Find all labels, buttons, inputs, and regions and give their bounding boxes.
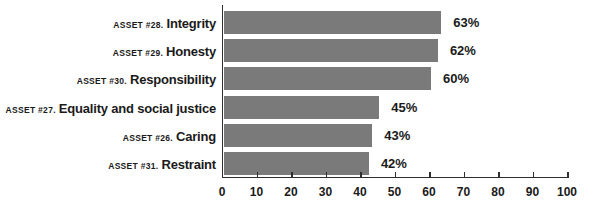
x-axis-tick-label: 30 xyxy=(319,185,332,199)
x-axis-tick-label: 90 xyxy=(526,185,539,199)
x-axis-tick-label: 100 xyxy=(557,185,577,199)
asset-name-label: Equality and social justice xyxy=(59,101,216,116)
value-label: 43% xyxy=(384,124,410,147)
category-label: ASSET #31.Restraint xyxy=(0,152,216,178)
category-label: ASSET #28.Integrity xyxy=(0,11,216,37)
x-axis-tick-label: 60 xyxy=(422,185,435,199)
x-axis-tick-label: 80 xyxy=(491,185,504,199)
x-axis-tick xyxy=(395,172,397,177)
asset-number-label: ASSET #29. xyxy=(113,48,163,58)
asset-number-label: ASSET #30. xyxy=(77,76,127,86)
x-axis-tick xyxy=(360,172,362,177)
x-axis-tick-label: 70 xyxy=(457,185,470,199)
asset-number-label: ASSET #28. xyxy=(113,20,163,30)
x-axis-line xyxy=(222,177,569,179)
asset-name-label: Caring xyxy=(176,129,216,144)
bar xyxy=(224,96,379,119)
x-axis-tick-label: 50 xyxy=(388,185,401,199)
y-axis-line xyxy=(222,5,224,178)
asset-number-label: ASSET #27. xyxy=(6,105,56,115)
x-axis-tick-label: 0 xyxy=(219,185,226,199)
x-axis-tick xyxy=(257,172,259,177)
asset-name-label: Integrity xyxy=(167,16,216,31)
bar-chart: ASSET #28.Integrity63%ASSET #29.Honesty6… xyxy=(0,0,592,208)
bar xyxy=(224,39,438,62)
bar-chart-figure: ASSET #28.Integrity63%ASSET #29.Honesty6… xyxy=(0,0,592,208)
x-axis-tick xyxy=(326,172,328,177)
x-axis-tick xyxy=(498,172,500,177)
x-axis-tick xyxy=(464,172,466,177)
x-axis-tick xyxy=(429,172,431,177)
value-label: 63% xyxy=(453,11,479,34)
bar xyxy=(224,67,431,90)
asset-name-label: Responsibility xyxy=(130,72,216,87)
x-axis-tick-label: 40 xyxy=(353,185,366,199)
value-label: 62% xyxy=(450,39,476,62)
asset-number-label: ASSET #26. xyxy=(123,133,173,143)
bar xyxy=(224,11,441,34)
x-axis-tick-label: 20 xyxy=(284,185,297,199)
asset-name-label: Honesty xyxy=(166,44,216,59)
bar xyxy=(224,152,369,175)
category-label: ASSET #29.Honesty xyxy=(0,39,216,65)
category-label: ASSET #27.Equality and social justice xyxy=(0,96,216,122)
x-axis-tick xyxy=(533,172,535,177)
asset-number-label: ASSET #31. xyxy=(108,161,158,171)
category-label: ASSET #30.Responsibility xyxy=(0,67,216,93)
value-label: 45% xyxy=(391,96,417,119)
x-axis-tick-label: 10 xyxy=(250,185,263,199)
bar xyxy=(224,124,372,147)
category-label: ASSET #26.Caring xyxy=(0,124,216,150)
asset-name-label: Restraint xyxy=(161,157,216,172)
x-axis-tick xyxy=(567,172,569,177)
x-axis-tick xyxy=(291,172,293,177)
value-label: 60% xyxy=(443,67,469,90)
